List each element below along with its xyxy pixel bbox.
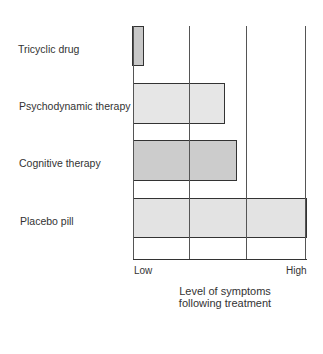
- x-axis-title-line2: following treatment: [170, 297, 280, 309]
- category-label-cognitive-therapy: Cognitive therapy: [19, 157, 101, 169]
- x-tick-low: Low: [134, 265, 152, 276]
- bar-psychodynamic-therapy: [133, 83, 225, 124]
- bar-placebo-pill: [133, 198, 307, 238]
- gridline: [305, 26, 306, 260]
- category-label-placebo-pill: Placebo pill: [20, 215, 74, 227]
- x-axis-title: Level of symptoms following treatment: [170, 285, 280, 309]
- x-axis-line: [133, 259, 307, 260]
- y-axis-line: [133, 26, 134, 260]
- category-label-tricyclic-drug: Tricyclic drug: [18, 43, 79, 55]
- x-axis-title-line1: Level of symptoms: [170, 285, 280, 297]
- x-tick-high: High: [286, 265, 307, 276]
- gridline: [189, 26, 190, 260]
- category-label-psychodynamic-therapy: Psychodynamic therapy: [19, 100, 130, 112]
- bar-cognitive-therapy: [133, 140, 237, 181]
- gridline: [246, 26, 247, 260]
